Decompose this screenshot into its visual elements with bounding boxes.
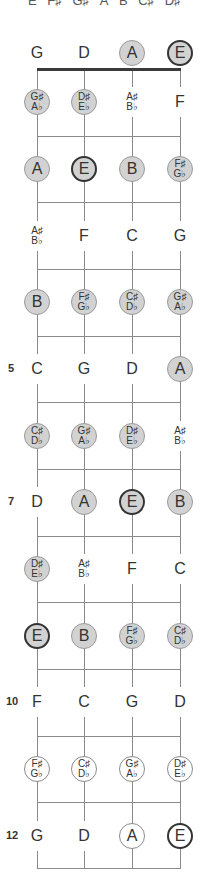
note-label: A♯B♭ — [73, 554, 95, 584]
scale-note-marker: D♯E♭ — [71, 89, 97, 115]
root-note-marker: E — [24, 623, 50, 649]
flat-name: G♭ — [31, 769, 44, 779]
scale-note-marker: F♯G♭ — [71, 289, 97, 315]
note-name: C — [31, 361, 43, 377]
note-label: G — [169, 221, 191, 251]
flat-name: A♭ — [31, 102, 43, 112]
flat-name: E♭ — [31, 569, 43, 579]
fret-line — [37, 202, 181, 203]
fret-line — [37, 402, 181, 403]
flat-name: A♭ — [78, 436, 90, 446]
scale-note-marker: C♯D♭ — [24, 423, 50, 449]
note-label: F — [26, 687, 48, 717]
note-label: D — [121, 354, 143, 384]
scale-note-marker: A — [119, 40, 145, 66]
fret-line — [37, 336, 181, 337]
flat-name: B♭ — [174, 436, 186, 446]
nut-line — [37, 68, 181, 71]
flat-name: B♭ — [31, 236, 43, 246]
scale-note-marker: C♯D♭ — [119, 289, 145, 315]
root-note-marker: E — [167, 40, 193, 66]
scale-note-marker: D♯E♭ — [119, 423, 145, 449]
note-name: G — [31, 45, 43, 61]
note-name: D — [31, 494, 43, 510]
note-name: A — [127, 45, 138, 61]
note-label: G — [73, 354, 95, 384]
scale-note-marker: F♯G♭ — [167, 156, 193, 182]
flat-name: E♭ — [126, 436, 138, 446]
note-name: B — [175, 494, 186, 510]
flat-name: B♭ — [78, 569, 90, 579]
root-note-marker: E — [71, 156, 97, 182]
root-note-marker: E — [119, 489, 145, 515]
flat-name: B♭ — [126, 102, 138, 112]
fret-line — [37, 868, 181, 869]
flat-name: D♭ — [126, 302, 138, 312]
fret-line — [37, 469, 181, 470]
fret-line — [37, 802, 181, 803]
scale-note-marker: B — [24, 289, 50, 315]
scale-note-marker: D♯E♭ — [24, 556, 50, 582]
note-name: G — [174, 228, 186, 244]
note-name: A — [79, 494, 90, 510]
scale-note-marker: D♯E♭ — [167, 756, 193, 782]
note-label: F — [73, 221, 95, 251]
note-name: G — [126, 694, 138, 710]
note-label: D — [169, 687, 191, 717]
note-name: F — [175, 94, 185, 110]
scale-note-marker: A — [71, 489, 97, 515]
note-label: A♯B♭ — [169, 421, 191, 451]
note-label: F — [169, 87, 191, 117]
fret-line — [37, 269, 181, 270]
scale-note-marker: G♯A♭ — [167, 289, 193, 315]
scale-note-marker: B — [71, 623, 97, 649]
fret-number: 12 — [6, 829, 28, 841]
flat-name: G♭ — [174, 169, 187, 179]
note-name: C — [174, 561, 186, 577]
scale-note-marker: F♯G♭ — [119, 623, 145, 649]
note-name: B — [127, 161, 138, 177]
fret-line — [37, 602, 181, 603]
note-name: A — [127, 828, 138, 844]
note-name: E — [127, 494, 138, 510]
note-name: G — [78, 361, 90, 377]
note-name: A — [32, 161, 43, 177]
note-label: C — [121, 221, 143, 251]
note-label: F — [121, 554, 143, 584]
note-name: D — [174, 694, 186, 710]
flat-name: D♭ — [31, 436, 43, 446]
fretboard-diagram: GDAEG♯A♭D♯E♭A♯B♭FAEBF♯G♭A♯B♭FCGBF♯G♭C♯D♭… — [0, 0, 209, 888]
note-name: B — [32, 294, 43, 310]
fret-number: 10 — [6, 695, 28, 707]
scale-note-marker: A — [167, 356, 193, 382]
scale-note-marker: F♯G♭ — [24, 756, 50, 782]
note-name: D — [126, 361, 138, 377]
note-name: A — [175, 361, 186, 377]
root-note-marker: E — [167, 823, 193, 849]
note-name: E — [79, 161, 90, 177]
note-name: D — [78, 45, 90, 61]
note-label: G — [121, 687, 143, 717]
scale-note-marker: G♯A♭ — [71, 423, 97, 449]
note-name: C — [78, 694, 90, 710]
flat-name: G♭ — [126, 636, 139, 646]
flat-name: D♭ — [174, 636, 186, 646]
note-name: C — [126, 228, 138, 244]
note-label: D — [73, 821, 95, 851]
note-name: G — [31, 828, 43, 844]
note-name: E — [175, 45, 186, 61]
flat-name: E♭ — [78, 102, 90, 112]
scale-note-marker: G♯A♭ — [24, 89, 50, 115]
scale-note-marker: B — [167, 489, 193, 515]
flat-name: A♭ — [174, 302, 186, 312]
note-label: G — [26, 38, 48, 68]
note-name: F — [32, 694, 42, 710]
note-name: B — [79, 628, 90, 644]
scale-note-marker: A — [24, 156, 50, 182]
fret-line — [37, 536, 181, 537]
scale-note-marker: C♯D♭ — [71, 756, 97, 782]
flat-name: E♭ — [174, 769, 186, 779]
note-name: D — [78, 828, 90, 844]
fret-number: 5 — [8, 362, 30, 374]
scale-note-marker: C♯D♭ — [167, 623, 193, 649]
